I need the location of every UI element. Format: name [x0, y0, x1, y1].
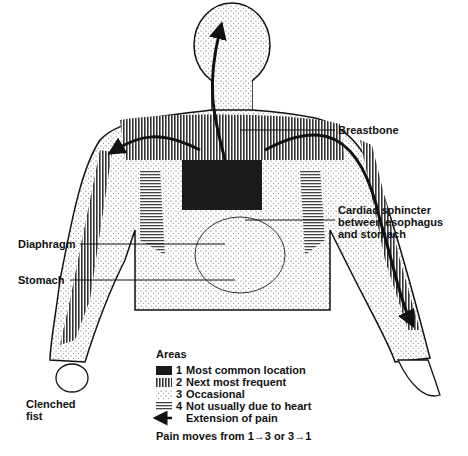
legend-item: Occasional: [186, 388, 245, 400]
label-cardiac-sphincter: Cardiac sphincter between esophagus and …: [338, 204, 443, 240]
label-clenched-fist: Clenched fist: [26, 398, 76, 422]
legend-item: Next most frequent: [186, 376, 286, 388]
legend-item: Not usually due to heart: [186, 400, 311, 412]
legend-title: Areas: [156, 348, 311, 360]
legend-item: Extension of pain: [186, 412, 278, 424]
chest-pain-diagram: Breastbone Cardiac sphincter between eso…: [0, 0, 468, 456]
legend-footer: Pain moves from 1→3 or 3→1: [156, 430, 311, 442]
legend: Areas 1Most common location 2Next most f…: [156, 348, 311, 442]
label-breastbone: Breastbone: [338, 124, 399, 136]
area-most-common: [182, 160, 262, 210]
label-diaphragm: Diaphragm: [18, 238, 75, 250]
label-stomach: Stomach: [18, 274, 64, 286]
legend-item: Most common location: [186, 364, 306, 376]
